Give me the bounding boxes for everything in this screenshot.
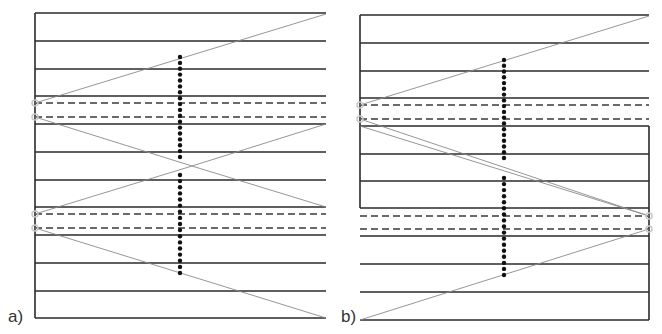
panel-a-dot [178, 149, 182, 153]
panel-a-dot [178, 203, 182, 207]
panel-a-label: a) [8, 307, 23, 327]
panel-a-dot [178, 222, 182, 226]
panel-b-dot [502, 194, 506, 198]
panel-a-dot [178, 252, 182, 256]
panel-b-dot [502, 182, 506, 186]
panel-a-dot [178, 246, 182, 250]
panel-a-dot [178, 210, 182, 214]
panel-a-dot [178, 61, 182, 65]
panel-b-dot [502, 261, 506, 265]
panel-a-dot [178, 114, 182, 118]
panel-b-dot [502, 212, 506, 216]
panel-a-dot [178, 90, 182, 94]
panel-a-dot [178, 131, 182, 135]
panel-a-dot [178, 234, 182, 238]
panel-b-dot [502, 230, 506, 234]
panel-a-dot [178, 185, 182, 189]
panel-b-dot [502, 69, 506, 73]
panel-a-dot [178, 125, 182, 129]
panel-b-dot [502, 176, 506, 180]
panel-a-dot [178, 84, 182, 88]
panel-b-dot [502, 243, 506, 247]
panel-b-dot [502, 249, 506, 253]
panel-b-dot [502, 267, 506, 271]
panel-b-dot [502, 188, 506, 192]
diagram-canvas [0, 0, 662, 334]
panel-a-dot [178, 120, 182, 124]
panel-a-dot [178, 191, 182, 195]
panel-b-dot [502, 200, 506, 204]
panel-a-dot [178, 155, 182, 159]
panel-b-dot [502, 115, 506, 119]
panel-a-ray [192, 166, 326, 207]
panel-a-dot [178, 72, 182, 76]
panel-a-ray [192, 124, 326, 166]
panel-a-dot [178, 259, 182, 263]
panel-b-dot [502, 133, 506, 137]
figure: a) b) [0, 0, 662, 334]
panel-b-label: b) [341, 307, 356, 327]
panel-b-dot [502, 87, 506, 91]
panel-a-dot [178, 271, 182, 275]
panel-a-dot [178, 67, 182, 71]
panel-b-dot [502, 236, 506, 240]
panel-a-dot [178, 55, 182, 59]
panel-b-dot [502, 127, 506, 131]
panel-b-dot [502, 121, 506, 125]
panel-b-dot [502, 224, 506, 228]
panel-a-dot [178, 108, 182, 112]
panel-b-dot [502, 273, 506, 277]
panel-b-dot [502, 255, 506, 259]
panel-b-dot [502, 58, 506, 62]
panel-b-dot [502, 150, 506, 154]
panel-b-dot [502, 110, 506, 114]
panel-b-dot [502, 156, 506, 160]
panel-b-dot [502, 139, 506, 143]
panel-b-dot [502, 98, 506, 102]
panel-a-dot [178, 216, 182, 220]
panel-a-dot [178, 179, 182, 183]
panel-b-dot [502, 104, 506, 108]
panel-a-dot [178, 265, 182, 269]
panel-a-dot [178, 173, 182, 177]
panel-a-dot [178, 240, 182, 244]
panel-b-dot [502, 218, 506, 222]
panel-b-dot [502, 81, 506, 85]
panel-a-dot [178, 102, 182, 106]
panel-a-dot [178, 96, 182, 100]
panel-a-dot [178, 78, 182, 82]
panel-a-dot [178, 143, 182, 147]
panel-a-dot [178, 228, 182, 232]
panel-b-dot [502, 92, 506, 96]
panel-b-dot [502, 64, 506, 68]
panel-a-dot [178, 137, 182, 141]
panel-b-dot [502, 206, 506, 210]
panel-b-dot [502, 75, 506, 79]
panel-b-dot [502, 144, 506, 148]
panel-a-dot [178, 197, 182, 201]
